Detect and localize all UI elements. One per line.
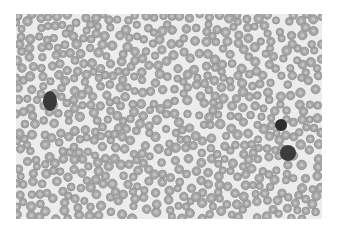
red-blood-cell <box>133 33 140 40</box>
red-blood-cell <box>108 41 117 50</box>
red-blood-cell <box>59 155 68 164</box>
red-blood-cell <box>267 79 275 87</box>
red-blood-cell <box>168 26 177 35</box>
red-blood-cell <box>151 79 160 88</box>
red-blood-cell <box>125 160 133 168</box>
white-blood-cell <box>280 145 296 161</box>
red-blood-cell <box>27 211 36 219</box>
red-blood-cell <box>302 195 310 203</box>
red-blood-cell <box>298 31 307 40</box>
red-blood-cell <box>129 188 137 196</box>
red-blood-cell <box>244 24 252 32</box>
red-blood-cell <box>221 27 231 37</box>
red-blood-cell <box>185 14 193 22</box>
cell-layer <box>16 14 322 219</box>
red-blood-cell <box>265 153 273 161</box>
red-blood-cell <box>170 109 179 118</box>
red-blood-cell <box>54 44 61 51</box>
red-blood-cell <box>180 35 188 43</box>
red-blood-cell <box>138 149 147 158</box>
red-blood-cell <box>116 31 125 40</box>
red-blood-cell <box>249 181 256 188</box>
red-blood-cell <box>234 213 242 219</box>
red-blood-cell <box>219 94 228 103</box>
red-blood-cell <box>158 26 167 35</box>
red-blood-cell <box>92 14 101 23</box>
red-blood-cell <box>43 189 51 197</box>
red-blood-cell <box>107 24 114 31</box>
red-blood-cell <box>223 37 232 46</box>
red-blood-cell <box>207 134 216 143</box>
red-blood-cell <box>83 27 90 34</box>
red-blood-cell <box>96 201 105 210</box>
red-blood-cell <box>166 206 174 214</box>
red-blood-cell <box>111 188 119 196</box>
red-blood-cell <box>71 56 79 64</box>
red-blood-cell <box>56 60 64 68</box>
red-blood-cell <box>39 53 47 61</box>
red-blood-cell <box>232 200 241 209</box>
red-blood-cell <box>218 60 227 69</box>
red-blood-cell <box>309 15 318 24</box>
red-blood-cell <box>182 144 190 152</box>
red-blood-cell <box>312 191 321 200</box>
red-blood-cell <box>295 129 303 137</box>
red-blood-cell <box>228 159 237 168</box>
red-blood-cell <box>269 52 277 60</box>
red-blood-cell <box>166 174 174 182</box>
red-blood-cell <box>299 107 308 116</box>
red-blood-cell <box>318 40 323 49</box>
red-blood-cell <box>239 192 248 201</box>
red-blood-cell <box>116 83 125 92</box>
red-blood-cell <box>107 208 115 216</box>
red-blood-cell <box>146 107 153 114</box>
red-blood-cell <box>122 68 130 76</box>
red-blood-cell <box>64 215 72 219</box>
red-blood-cell <box>152 115 161 124</box>
red-blood-cell <box>19 108 27 116</box>
red-blood-cell <box>215 180 224 189</box>
red-blood-cell <box>197 158 206 167</box>
red-blood-cell <box>101 172 109 180</box>
red-blood-cell <box>176 178 184 186</box>
red-blood-cell <box>151 52 158 59</box>
red-blood-cell <box>252 190 259 197</box>
red-blood-cell <box>21 120 29 128</box>
red-blood-cell <box>250 43 259 52</box>
red-blood-cell <box>133 21 140 28</box>
red-blood-cell <box>137 68 146 77</box>
red-blood-cell <box>163 73 171 81</box>
red-blood-cell <box>254 121 261 128</box>
red-blood-cell <box>25 53 34 62</box>
red-blood-cell <box>139 193 148 202</box>
red-blood-cell <box>65 117 72 124</box>
red-blood-cell <box>314 72 322 80</box>
red-blood-cell <box>36 33 44 41</box>
red-blood-cell <box>131 73 138 80</box>
red-blood-cell <box>142 14 150 20</box>
red-blood-cell <box>150 170 159 179</box>
red-blood-cell <box>108 179 118 189</box>
red-blood-cell <box>265 60 273 68</box>
red-blood-cell <box>260 105 267 112</box>
red-blood-cell <box>33 163 40 170</box>
red-blood-cell <box>180 90 187 97</box>
red-blood-cell <box>265 171 273 179</box>
red-blood-cell <box>248 140 256 148</box>
red-blood-cell <box>223 182 232 191</box>
red-blood-cell <box>150 14 158 22</box>
red-blood-cell <box>209 203 216 210</box>
red-blood-cell <box>26 34 35 43</box>
red-blood-cell <box>16 165 23 173</box>
red-blood-cell <box>60 206 69 215</box>
red-blood-cell <box>203 50 212 59</box>
red-blood-cell <box>158 85 167 94</box>
red-blood-cell <box>175 14 184 21</box>
red-blood-cell <box>61 41 69 49</box>
red-blood-cell <box>45 153 54 162</box>
red-blood-cell <box>219 167 226 174</box>
red-blood-cell <box>192 167 201 176</box>
red-blood-cell <box>256 182 263 189</box>
red-blood-cell <box>40 83 47 90</box>
red-blood-cell <box>194 74 201 81</box>
